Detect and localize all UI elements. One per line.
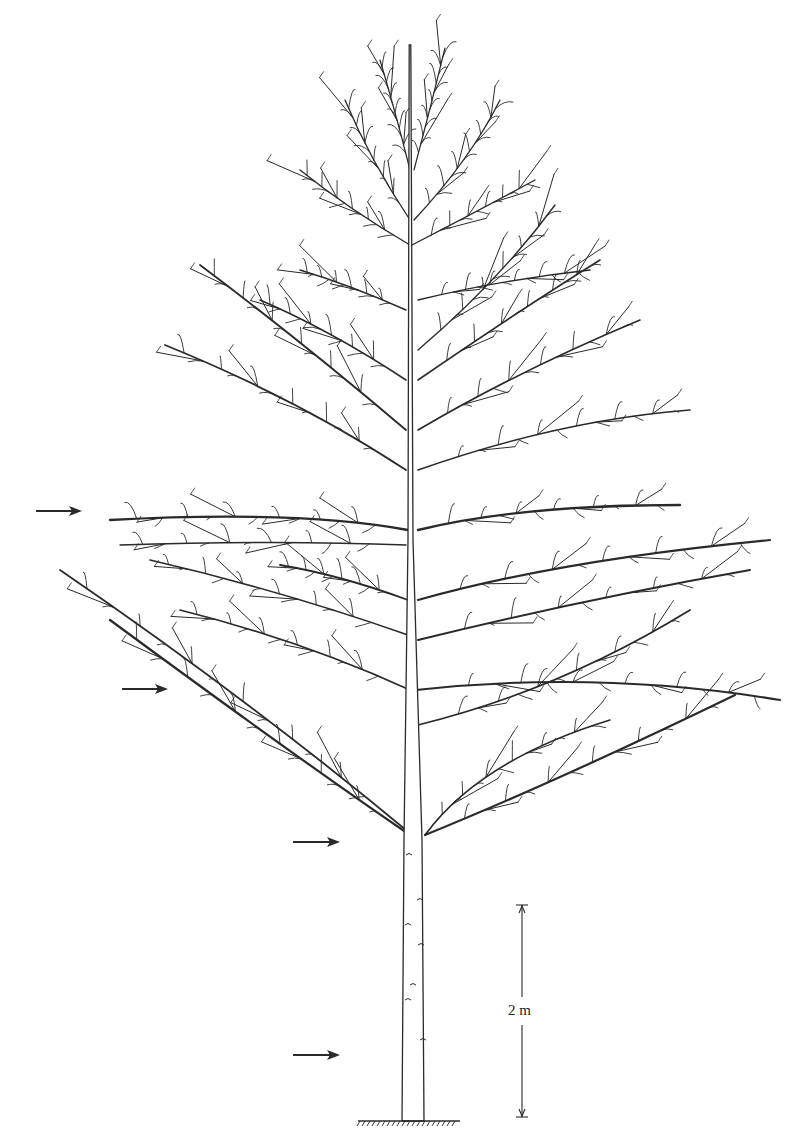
sub-branch xyxy=(482,583,526,584)
twig xyxy=(740,543,750,554)
twig xyxy=(671,621,679,622)
twig xyxy=(337,558,342,579)
twig xyxy=(320,192,324,198)
twig xyxy=(469,673,474,685)
twig xyxy=(603,546,610,561)
twig xyxy=(670,600,674,606)
twig xyxy=(230,595,234,601)
twig xyxy=(466,128,470,134)
twig xyxy=(577,272,589,281)
sub-branch xyxy=(729,679,761,692)
branch xyxy=(412,180,535,245)
twig xyxy=(573,643,577,649)
sub-branch xyxy=(539,174,554,226)
twig xyxy=(212,578,224,582)
twig xyxy=(484,101,491,117)
twig xyxy=(358,544,370,551)
sub-branch xyxy=(486,732,514,777)
twig xyxy=(548,766,550,783)
twig xyxy=(280,551,289,566)
sub-branch xyxy=(461,337,493,351)
branch xyxy=(345,100,410,220)
twig xyxy=(577,742,581,748)
twig xyxy=(547,145,551,151)
twig xyxy=(359,296,375,297)
sub-branch xyxy=(464,520,510,522)
twig xyxy=(239,629,248,632)
sub-branch xyxy=(501,295,518,324)
twig xyxy=(518,439,528,443)
tree-figure xyxy=(0,0,808,1147)
sub-branch xyxy=(548,748,577,782)
branch xyxy=(414,100,500,220)
twig xyxy=(388,155,392,161)
twig xyxy=(719,673,723,679)
twig xyxy=(279,278,283,284)
twig xyxy=(364,279,367,293)
sub-branch xyxy=(437,173,464,195)
twig xyxy=(257,528,271,543)
twig xyxy=(498,773,502,779)
twig xyxy=(343,581,351,584)
twig xyxy=(334,752,338,758)
twig xyxy=(269,639,282,643)
twig xyxy=(511,597,516,618)
twig xyxy=(286,319,301,323)
twig xyxy=(554,498,561,509)
twig xyxy=(361,374,363,392)
twig xyxy=(428,89,432,100)
twig xyxy=(605,240,609,246)
sub-branch xyxy=(527,744,552,753)
sub-branch xyxy=(334,758,359,800)
tree-branches xyxy=(60,14,780,835)
twig xyxy=(347,130,351,136)
twig xyxy=(464,167,468,173)
twig xyxy=(212,665,216,671)
tree-trunk xyxy=(402,45,426,1121)
twig xyxy=(761,673,765,679)
twig xyxy=(383,160,385,177)
branch xyxy=(180,610,410,690)
twig xyxy=(317,726,321,732)
twig xyxy=(603,696,607,702)
sub-branch xyxy=(246,543,292,553)
twig xyxy=(573,508,584,518)
twig xyxy=(278,264,282,270)
twig xyxy=(514,726,518,732)
sub-branch xyxy=(191,494,236,517)
twig xyxy=(351,318,355,324)
twig xyxy=(342,407,346,413)
twig xyxy=(255,281,259,287)
twig xyxy=(243,280,245,297)
twig xyxy=(628,301,632,307)
twig xyxy=(418,119,424,136)
twig xyxy=(292,388,293,404)
twig xyxy=(593,495,598,507)
twig xyxy=(464,133,470,152)
twig xyxy=(374,146,376,160)
twig xyxy=(477,211,489,214)
twig xyxy=(373,340,374,360)
twig xyxy=(217,553,221,559)
sub-branch xyxy=(421,99,448,144)
sub-branch xyxy=(320,78,353,118)
twig xyxy=(678,389,682,395)
twig xyxy=(662,483,666,489)
twig xyxy=(332,630,336,636)
branch xyxy=(418,410,690,470)
twig xyxy=(533,617,537,623)
twig xyxy=(125,502,137,519)
sub-branch xyxy=(512,235,544,258)
scale-bar-label: 2 m xyxy=(508,1000,531,1021)
twig xyxy=(442,282,448,294)
twig xyxy=(370,811,377,812)
twig xyxy=(738,546,742,552)
twig xyxy=(615,752,631,754)
twig xyxy=(133,532,143,544)
twig xyxy=(495,116,499,122)
twig xyxy=(399,110,405,128)
twig xyxy=(462,781,463,795)
sub-branch xyxy=(629,557,670,560)
twig xyxy=(220,355,222,369)
twig xyxy=(478,378,481,397)
